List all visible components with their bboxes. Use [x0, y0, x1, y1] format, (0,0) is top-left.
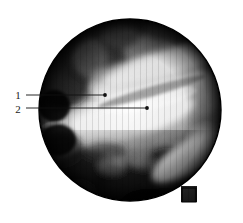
- annotation-1-endpoint-dot: [103, 93, 107, 97]
- field-vignette: [39, 19, 221, 201]
- annotation-2-endpoint-dot: [145, 106, 149, 110]
- annotation-1-label: 1: [15, 89, 21, 101]
- figure-container: 1 2: [0, 0, 243, 223]
- annotation-2-label: 2: [15, 103, 21, 115]
- endoscopic-figure: 1 2: [0, 0, 243, 223]
